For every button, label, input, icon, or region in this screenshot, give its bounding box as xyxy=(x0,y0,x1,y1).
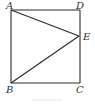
geometry-figure: A D E B C xyxy=(0,0,95,106)
label-D: D xyxy=(75,0,84,11)
label-B: B xyxy=(5,84,13,95)
label-A: A xyxy=(5,0,13,11)
segment-BE xyxy=(11,36,79,83)
faint-caption xyxy=(32,99,62,101)
label-C: C xyxy=(76,84,84,95)
segment-AE xyxy=(11,10,79,36)
label-E: E xyxy=(82,31,91,42)
